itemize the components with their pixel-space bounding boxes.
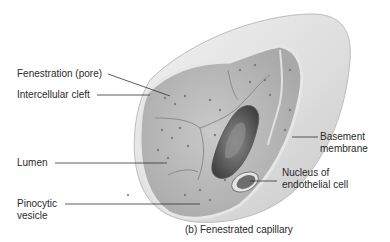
figure-caption: (b) Fenestrated capillary	[185, 224, 293, 236]
label-basement-line2: membrane	[320, 143, 368, 155]
label-nucleus-line1: Nucleus of	[282, 167, 329, 179]
capillary-illustration	[0, 0, 390, 242]
label-lumen: Lumen	[17, 157, 48, 169]
label-pinocytic-line1: Pinocytic	[17, 198, 57, 210]
label-fenestration: Fenestration (pore)	[17, 68, 102, 80]
capillary-tube	[134, 14, 350, 222]
label-pinocytic-line2: vesicle	[17, 210, 48, 222]
label-basement-line1: Basement	[320, 131, 365, 143]
label-nucleus-line2: endothelial cell	[282, 179, 348, 191]
label-intercellular-cleft: Intercellular cleft	[17, 89, 90, 101]
